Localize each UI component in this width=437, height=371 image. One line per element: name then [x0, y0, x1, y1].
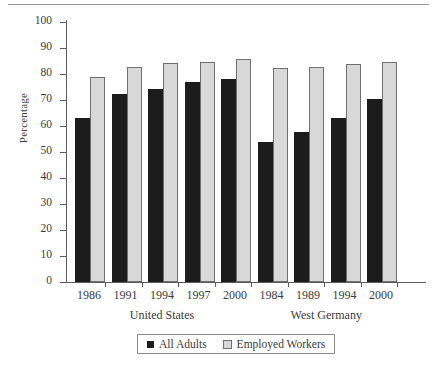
plot-area — [66, 22, 420, 282]
y-axis-tick-label: 10 — [41, 248, 53, 260]
top-horizontal-rule — [8, 4, 429, 5]
y-axis-tick-label: 70 — [41, 92, 53, 104]
y-axis-tick-mark — [60, 282, 66, 283]
legend-entry: Employed Workers — [223, 338, 326, 350]
light-square-icon — [223, 340, 232, 349]
dark-square-icon — [147, 341, 154, 348]
x-axis-tick-mark — [142, 282, 143, 287]
group-label: West Germany — [266, 308, 386, 323]
x-axis-tick-mark — [361, 282, 362, 287]
bar-all-adults — [367, 99, 382, 282]
x-axis-tick-mark — [324, 282, 325, 287]
x-axis-tick-mark — [397, 282, 398, 287]
bar-employed-workers — [309, 67, 324, 282]
bar-employed-workers — [382, 62, 397, 282]
x-axis-line — [60, 282, 426, 283]
y-axis-tick-label: 30 — [41, 196, 53, 208]
bar-employed-workers — [236, 59, 251, 282]
y-axis-tick-label: 90 — [41, 40, 53, 52]
bar-employed-workers — [90, 77, 105, 282]
bar-employed-workers — [163, 63, 178, 282]
bar-all-adults — [221, 79, 236, 283]
bar-employed-workers — [346, 64, 361, 282]
x-axis-tick-label: 2000 — [359, 288, 403, 303]
legend-label: All Adults — [159, 338, 207, 350]
y-axis-tick-label: 20 — [41, 222, 53, 234]
bar-all-adults — [185, 82, 200, 282]
legend-label: Employed Workers — [237, 338, 326, 350]
bar-all-adults — [112, 94, 127, 282]
bar-all-adults — [148, 89, 163, 282]
legend-entry: All Adults — [147, 338, 207, 350]
y-axis-tick-label: 0 — [46, 274, 52, 286]
y-axis-title: Percentage — [17, 73, 29, 163]
x-axis-tick-mark — [215, 282, 216, 287]
y-axis-tick-label: 100 — [35, 14, 52, 26]
y-axis-tick-label: 80 — [41, 66, 53, 78]
chart-legend: All AdultsEmployed Workers — [137, 334, 335, 354]
bar-all-adults — [75, 118, 90, 283]
x-axis-tick-mark — [105, 282, 106, 287]
x-axis-tick-mark — [288, 282, 289, 287]
x-axis-tick-mark — [251, 282, 252, 287]
bar-all-adults — [258, 142, 273, 282]
bar-all-adults — [294, 132, 309, 282]
group-label: United States — [102, 308, 222, 323]
bar-employed-workers — [127, 67, 142, 282]
x-axis-tick-mark — [178, 282, 179, 287]
bar-chart-figure: Percentage 1009080706050403020100 198619… — [0, 0, 437, 371]
bar-employed-workers — [200, 62, 215, 282]
y-axis-tick-label: 40 — [41, 170, 53, 182]
y-axis-tick-label: 50 — [41, 144, 53, 156]
bar-employed-workers — [273, 68, 288, 282]
bar-all-adults — [331, 118, 346, 283]
y-axis-tick-label: 60 — [41, 118, 53, 130]
